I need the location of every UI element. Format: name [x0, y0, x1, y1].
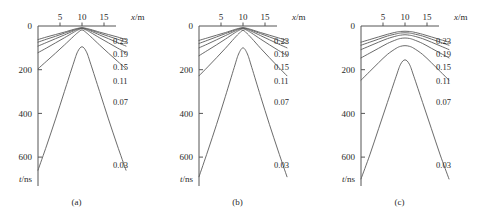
x-tick-label: 5 — [380, 12, 385, 22]
x-axis-ticks: 51015 — [380, 12, 431, 26]
x-tick-label: 15 — [261, 12, 271, 22]
curve-labels: 0.230.190.150.110.070.03 — [274, 36, 289, 170]
panel-caption: (a) — [72, 197, 82, 207]
y-tick-label: 400 — [19, 109, 33, 119]
x-axis-label: x/m — [453, 12, 468, 22]
x-tick-label: 10 — [400, 12, 410, 22]
plot-area: 51015x/m0200400600t/ns0.230.190.150.110.… — [161, 0, 322, 216]
y-tick-label: 0 — [28, 21, 33, 31]
curve-label: 0.03 — [274, 160, 289, 170]
curve-label: 0.19 — [436, 49, 451, 59]
curve-label: 0.11 — [113, 76, 128, 86]
y-axis-label: t/ns — [19, 174, 33, 184]
y-tick-label: 200 — [19, 65, 33, 75]
x-tick-label: 5 — [219, 12, 224, 22]
x-tick-label: 10 — [78, 12, 88, 22]
panel-caption: (b) — [233, 197, 244, 207]
curve-label: 0.23 — [113, 36, 128, 46]
curve-label: 0.03 — [113, 160, 128, 170]
curve-label: 0.11 — [274, 76, 289, 86]
curve-label: 0.15 — [274, 62, 289, 72]
curve-label: 0.07 — [113, 97, 128, 107]
x-axis-label: x/m — [130, 12, 145, 22]
panel-caption: (c) — [394, 197, 404, 207]
curve-label: 0.07 — [274, 97, 289, 107]
y-tick-label: 0 — [189, 21, 194, 31]
chart-panel-a: 51015x/m0200400600t/ns0.230.190.150.110.… — [0, 0, 161, 216]
axes — [361, 26, 439, 186]
axes — [199, 26, 277, 186]
plot-area: 51015x/m0200400600t/ns0.230.190.150.110.… — [323, 0, 484, 216]
plot-area: 51015x/m0200400600t/ns0.230.190.150.110.… — [0, 0, 161, 216]
y-tick-label: 200 — [341, 65, 355, 75]
y-axis-label: t/ns — [180, 174, 194, 184]
y-tick-label: 600 — [19, 152, 33, 162]
curve-label: 0.03 — [436, 160, 451, 170]
travel-time-curve-figure: 51015x/m0200400600t/ns0.230.190.150.110.… — [0, 0, 484, 216]
curve-label: 0.23 — [274, 36, 289, 46]
curve-labels: 0.230.190.150.110.070.03 — [113, 36, 128, 170]
x-axis-ticks: 51015 — [58, 12, 109, 26]
y-axis-label: t/ns — [342, 174, 356, 184]
curve-label: 0.19 — [113, 49, 128, 59]
x-tick-label: 15 — [422, 12, 432, 22]
y-tick-label: 600 — [341, 152, 355, 162]
x-tick-label: 15 — [100, 12, 110, 22]
curve-label: 0.15 — [113, 62, 128, 72]
y-tick-label: 0 — [350, 21, 355, 31]
x-axis-ticks: 51015 — [219, 12, 270, 26]
axis-lines — [199, 26, 277, 186]
x-axis-label: x/m — [291, 12, 306, 22]
chart-panel-b: 51015x/m0200400600t/ns0.230.190.150.110.… — [161, 0, 322, 216]
y-tick-label: 400 — [180, 109, 194, 119]
curve-label: 0.15 — [436, 62, 451, 72]
curve-label: 0.11 — [436, 76, 451, 86]
curve-label: 0.23 — [436, 36, 451, 46]
x-tick-label: 10 — [239, 12, 249, 22]
curve-label: 0.07 — [436, 97, 451, 107]
y-tick-label: 600 — [180, 152, 194, 162]
curve-label: 0.19 — [274, 49, 289, 59]
axis-lines — [361, 26, 439, 186]
x-tick-label: 5 — [58, 12, 63, 22]
y-tick-label: 200 — [180, 65, 194, 75]
chart-panel-c: 51015x/m0200400600t/ns0.230.190.150.110.… — [323, 0, 484, 216]
y-tick-label: 400 — [341, 109, 355, 119]
